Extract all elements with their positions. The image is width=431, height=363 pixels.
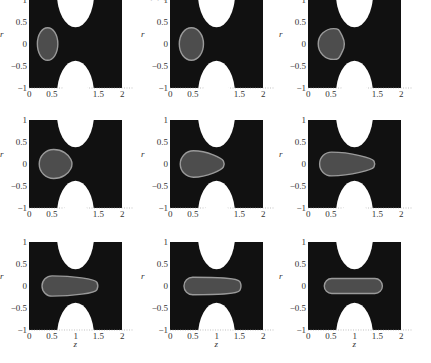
x-tick-label: 1.5 [372,332,383,341]
x-tick-label: 2 [120,332,125,341]
y-tick-label: 0 [302,160,307,169]
top-constriction-wall [336,201,373,269]
x-tick-label: 2 [120,90,125,99]
simulation-plot [308,120,401,208]
x-tick-label: 1.5 [372,210,383,219]
top-constriction-wall [57,201,94,269]
x-tick-label: 0.5 [46,90,57,99]
y-tick-label: 1 [23,116,28,125]
x-tick-label: 2 [399,332,404,341]
droplet [179,28,203,61]
y-tick-label: 0 [23,282,28,291]
y-tick-label: 0.5 [295,260,306,269]
top-constriction-wall [57,79,94,147]
simulation-plot [29,242,122,330]
y-tick-label: −1 [296,326,306,335]
x-tick-label: 0 [306,210,311,219]
simulation-plot [170,120,263,208]
y-tick-label: 1 [23,238,28,247]
droplet [324,279,382,294]
x-tick-label: 1.5 [93,90,104,99]
droplet-constriction-figure: · · · · · · · · · · · · · T=0.110.50−0.5… [0,0,431,363]
y-tick-label: 1 [302,116,307,125]
y-axis-label: r [141,150,145,159]
y-tick-label: 1 [302,238,307,247]
x-tick-label: 0 [306,90,311,99]
top-constriction-wall [198,201,235,269]
y-tick-label: −0.5 [11,62,27,71]
x-tick-label: 0.5 [46,210,57,219]
y-tick-label: 1 [164,116,169,125]
panel-t-2: T=210.50−0.5−1r00.511.52z [0,242,140,363]
y-tick-label: −1 [158,326,168,335]
y-tick-label: −0.5 [152,62,168,71]
y-tick-label: −0.5 [152,182,168,191]
x-tick-label: 2 [120,210,125,219]
x-tick-label: 0.5 [187,90,198,99]
y-tick-label: 1 [23,0,28,5]
x-tick-label: 0 [168,332,173,341]
droplet [318,29,344,60]
y-tick-label: 0 [23,160,28,169]
x-tick-label: 1.5 [234,210,245,219]
simulation-plot [308,0,401,88]
droplet [42,276,98,296]
x-tick-label: 0.5 [46,332,57,341]
y-tick-label: 0.5 [157,18,168,27]
x-tick-label: 2 [261,332,266,341]
y-tick-label: −0.5 [11,304,27,313]
y-axis-label: r [0,272,4,281]
y-tick-label: 0.5 [157,260,168,269]
y-tick-label: 1 [302,0,307,5]
y-tick-label: 0 [302,282,307,291]
y-tick-label: −0.5 [290,182,306,191]
y-tick-label: 0.5 [16,260,27,269]
x-tick-label: 2 [261,210,266,219]
x-tick-label: 2 [399,90,404,99]
x-tick-label: 1.5 [372,90,383,99]
simulation-plot [308,242,401,330]
top-constriction-wall [198,79,235,147]
y-tick-label: −1 [17,326,27,335]
x-axis-label: z [353,340,357,349]
y-axis-label: r [141,30,145,39]
x-tick-label: 0.5 [325,210,336,219]
y-axis-label: r [0,150,4,159]
y-tick-label: 0 [164,282,169,291]
x-tick-label: 0 [168,210,173,219]
x-tick-label: 0 [27,332,32,341]
x-tick-label: 1.5 [234,90,245,99]
droplet [37,28,57,61]
y-axis-label: r [141,272,145,281]
y-tick-label: −0.5 [290,62,306,71]
x-axis-label: z [215,340,219,349]
y-tick-label: −1 [158,84,168,93]
y-axis-label: r [279,272,283,281]
y-tick-label: 0.5 [295,138,306,147]
y-axis-label: r [279,150,283,159]
y-tick-label: −0.5 [290,304,306,313]
y-tick-label: −1 [17,204,27,213]
x-tick-label: 0.5 [187,332,198,341]
droplet [184,277,241,295]
panel-t-4: T=410.50−0.5−1r00.511.52z [279,242,419,363]
x-tick-label: 0 [168,90,173,99]
y-tick-label: 1 [164,0,169,5]
y-tick-label: 0 [164,160,169,169]
simulation-plot [29,0,122,88]
y-tick-label: 0 [302,40,307,49]
y-tick-label: 1 [164,238,169,247]
x-tick-label: 0.5 [187,210,198,219]
y-axis-label: r [279,30,283,39]
panel-t-3: T=310.50−0.5−1r00.511.52z [141,242,281,363]
x-tick-label: 0.5 [325,332,336,341]
y-tick-label: 0 [164,40,169,49]
x-tick-label: 0 [27,90,32,99]
x-tick-label: 1.5 [93,210,104,219]
simulation-plot [170,242,263,330]
x-tick-label: 1.5 [93,332,104,341]
x-tick-label: 1.5 [234,332,245,341]
y-tick-label: −0.5 [152,304,168,313]
y-tick-label: −1 [296,84,306,93]
y-tick-label: 0.5 [16,138,27,147]
